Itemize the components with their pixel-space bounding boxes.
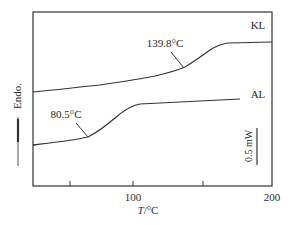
annotation-al-temp: 80.5°C	[51, 108, 82, 120]
x-axis-label-unit: /°C	[144, 204, 159, 216]
series-label-al: AL	[251, 88, 266, 100]
annotation-al-arrow	[76, 123, 88, 137]
y-axis-label: Endo.	[11, 83, 23, 109]
series-label-kl: KL	[251, 19, 266, 31]
series-kl-curve	[33, 42, 272, 92]
x-axis-ticks	[70, 181, 203, 186]
series-al-curve	[33, 99, 240, 145]
x-tick-label-200: 200	[264, 191, 281, 203]
annotation-kl-arrow	[171, 52, 184, 68]
x-axis-label: T/°C	[138, 204, 159, 216]
scale-bar-label: 0.5 mW	[243, 129, 254, 162]
x-tick-label-100: 100	[125, 191, 142, 203]
annotation-kl-temp: 139.8°C	[147, 37, 184, 49]
dsc-chart: 100 200 T/°C Endo. KL AL 139.8°C 80.5°C …	[0, 0, 292, 225]
